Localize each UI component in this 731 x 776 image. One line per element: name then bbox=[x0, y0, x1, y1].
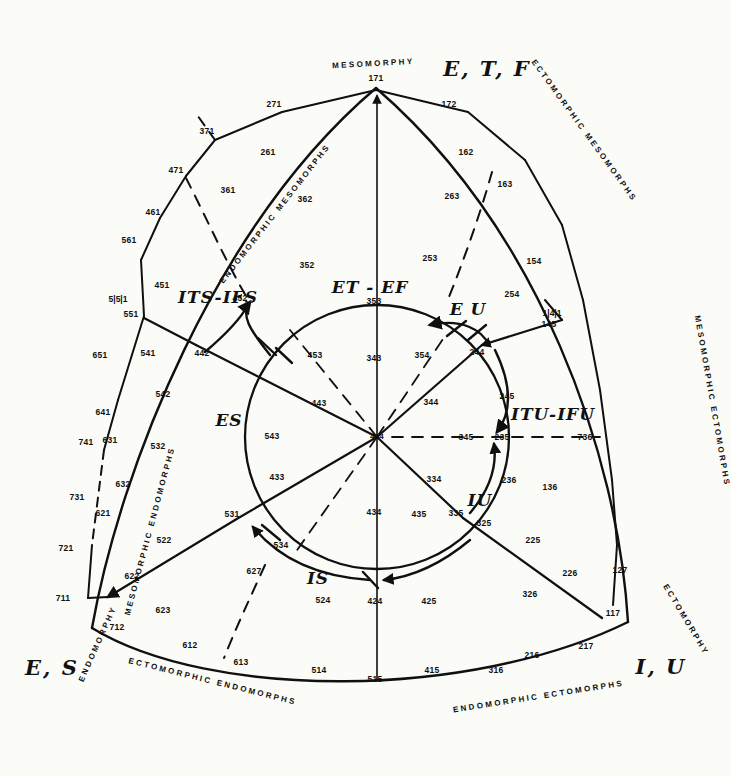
somatotype-code: 344 bbox=[424, 398, 439, 407]
somatotype-code: 541 bbox=[141, 349, 156, 358]
somatotype-code: 362 bbox=[298, 195, 313, 204]
somatotype-code: 471 bbox=[169, 166, 184, 175]
somatotype-code: 534 bbox=[274, 541, 289, 550]
edge-caption-mesomorphic-endomorphs: MESOMORPHIC ENDOMORPHS bbox=[63, 527, 238, 535]
somatotype-code: 542 bbox=[156, 390, 171, 399]
somatotype-code: 532 bbox=[151, 442, 166, 451]
somatotype-code: 522 bbox=[157, 536, 172, 545]
somatotype-code: 235 bbox=[495, 433, 510, 442]
somatotype-code: 524 bbox=[316, 596, 331, 605]
somatotype-code: 271 bbox=[267, 100, 282, 109]
somatotype-code: 621 bbox=[96, 509, 111, 518]
somatotype-code: 217 bbox=[579, 642, 594, 651]
somatotype-code: 216 bbox=[525, 651, 540, 660]
somatotype-code: 154 bbox=[527, 257, 542, 266]
corner-label-etf: E, T, F bbox=[443, 58, 530, 79]
somatotype-code: 443 bbox=[312, 399, 327, 408]
somatotype-code: 631 bbox=[103, 436, 118, 445]
somatotype-code: 415 bbox=[425, 666, 440, 675]
chart-artwork bbox=[0, 0, 731, 776]
somatotype-code: 225 bbox=[526, 536, 541, 545]
somatotype-code: 263 bbox=[445, 192, 460, 201]
somatotype-code: 731 bbox=[70, 493, 85, 502]
somatotype-chart: MESOMORPHY E, T, F E, S I, U ENDOMORPHIC… bbox=[0, 0, 731, 776]
edge-caption-endomorphic-ectomorphs: ENDOMORPHIC ECTOMORPHS bbox=[452, 693, 625, 701]
bracket-mark-left: 5|5|1 bbox=[109, 295, 128, 304]
somatotype-code: 515 bbox=[368, 675, 383, 684]
somatotype-code: 136 bbox=[543, 483, 558, 492]
somatotype-code: 442 bbox=[195, 349, 210, 358]
somatotype-code: 261 bbox=[261, 148, 276, 157]
edge-caption-mesomorphic-ectomorphs: MESOMORPHIC ECTOMORPHS bbox=[625, 397, 731, 405]
somatotype-code: 712 bbox=[110, 623, 125, 632]
corner-label-es: E, S bbox=[25, 657, 79, 678]
somatotype-code: 561 bbox=[122, 236, 137, 245]
somatotype-code: 334 bbox=[427, 475, 442, 484]
somatotype-code: 325 bbox=[477, 519, 492, 528]
pole-label-ectomorphy: ECTOMORPHY bbox=[645, 616, 726, 624]
somatotype-code: 353 bbox=[367, 297, 382, 306]
somatotype-code: 434 bbox=[367, 508, 382, 517]
somatotype-code: 551 bbox=[124, 310, 139, 319]
group-label-itu-ifu: ITU-IFU bbox=[511, 406, 595, 423]
somatotype-code: 253 bbox=[423, 254, 438, 263]
somatotype-code: 425 bbox=[422, 597, 437, 606]
somatotype-code: 632 bbox=[116, 480, 131, 489]
somatotype-code: 623 bbox=[156, 606, 171, 615]
somatotype-center-code: 444 bbox=[370, 433, 384, 441]
somatotype-code: 531 bbox=[225, 510, 240, 519]
somatotype-code: 736 bbox=[578, 433, 593, 442]
somatotype-code: 651 bbox=[93, 351, 108, 360]
somatotype-code: 451 bbox=[155, 281, 170, 290]
somatotype-code: 254 bbox=[505, 290, 520, 299]
somatotype-code: 613 bbox=[234, 658, 249, 667]
edge-caption-ectomorphic-endomorphs: ECTOMORPHIC ENDOMORPHS bbox=[126, 678, 299, 686]
somatotype-code: 361 bbox=[221, 186, 236, 195]
somatotype-code: 435 bbox=[412, 510, 427, 519]
somatotype-code: 433 bbox=[270, 473, 285, 482]
pole-label-mesomorphy: MESOMORPHY bbox=[332, 60, 415, 68]
somatotype-code: 145 bbox=[542, 320, 557, 329]
somatotype-code: 641 bbox=[96, 408, 111, 417]
somatotype-code: 343 bbox=[367, 354, 382, 363]
edge-caption-ectomorphic-mesomorphs: ECTOMORPHIC MESOMORPHS bbox=[497, 127, 671, 135]
somatotype-code: 117 bbox=[606, 609, 620, 618]
somatotype-code: 741 bbox=[79, 438, 94, 447]
somatotype-code: 345 bbox=[459, 433, 474, 442]
somatotype-code: 162 bbox=[459, 148, 474, 157]
somatotype-code: 171 bbox=[369, 74, 384, 83]
somatotype-code: 172 bbox=[442, 100, 457, 109]
somatotype-code: 612 bbox=[183, 641, 198, 650]
somatotype-code: 622 bbox=[125, 572, 140, 581]
somatotype-code: 316 bbox=[489, 666, 504, 675]
somatotype-code: 352 bbox=[300, 261, 315, 270]
bracket-mark-right: 1|4|1 bbox=[543, 309, 562, 318]
somatotype-code: 452 bbox=[233, 294, 248, 303]
somatotype-code: 461 bbox=[146, 208, 161, 217]
group-label-eu: E U bbox=[450, 301, 487, 318]
somatotype-code: 453 bbox=[308, 351, 323, 360]
somatotype-code: 326 bbox=[523, 590, 538, 599]
somatotype-code: 245 bbox=[500, 392, 515, 401]
group-label-iu: IU bbox=[468, 492, 493, 509]
somatotype-code: 354 bbox=[415, 351, 430, 360]
somatotype-code: 543 bbox=[265, 432, 280, 441]
somatotype-code: 371 bbox=[200, 127, 215, 136]
pole-label-endomorphy: ENDOMORPHY bbox=[57, 640, 139, 648]
edge-caption-endomorphic-mesomorphs: ENDOMORPHIC MESOMORPHS bbox=[188, 210, 363, 218]
somatotype-code: 711 bbox=[56, 594, 70, 603]
somatotype-code: 163 bbox=[498, 180, 513, 189]
somatotype-code: 424 bbox=[368, 597, 383, 606]
group-label-is: IS bbox=[307, 570, 329, 587]
somatotype-code: 244 bbox=[470, 348, 485, 357]
somatotype-code: 514 bbox=[312, 666, 327, 675]
somatotype-code: 226 bbox=[563, 569, 578, 578]
somatotype-code: 721 bbox=[59, 544, 74, 553]
somatotype-code: 627 bbox=[247, 567, 262, 576]
group-label-et-ef: ET - EF bbox=[332, 279, 409, 296]
group-label-es: ES bbox=[215, 412, 242, 429]
somatotype-code: 335 bbox=[449, 509, 464, 518]
somatotype-code: 127 bbox=[613, 566, 628, 575]
corner-label-iu: I, U bbox=[636, 656, 687, 677]
somatotype-code: 236 bbox=[502, 476, 517, 485]
